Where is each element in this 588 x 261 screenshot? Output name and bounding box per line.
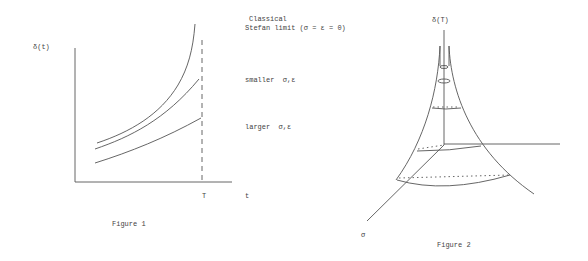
fig1-curve-classical — [97, 24, 195, 143]
fig1-x-axis-label: t — [245, 193, 249, 200]
fig2-level-5-back — [399, 175, 510, 178]
fig1-curve-smaller — [95, 79, 199, 149]
fig1-y-axis-label: δ(t) — [33, 44, 50, 51]
fig1-label-larger: larger σ,ε — [245, 124, 291, 131]
fig1-label-smaller: smaller σ,ε — [245, 77, 295, 84]
fig1-x-marker-label: T — [202, 193, 206, 200]
fig2-sigma-axis-label: σ — [361, 232, 365, 239]
fig2-sigma-axis — [367, 145, 444, 221]
fig2-vertical-axis-label: δ(T) — [432, 17, 449, 24]
fig2-surface-right-edge — [449, 46, 534, 194]
fig2-surface-left-edge — [396, 46, 440, 180]
fig1-label-classical-1: Classical — [249, 16, 287, 23]
fig2-level-4-front — [417, 146, 481, 151]
figure-1-plot — [0, 0, 588, 261]
fig2-level-3-front — [432, 108, 461, 109]
fig2-caption: Figure 2 — [437, 242, 471, 249]
fig1-label-classical-2: Stefan limit (σ = ε = 0) — [245, 25, 346, 32]
fig1-caption: Figure 1 — [112, 221, 146, 228]
